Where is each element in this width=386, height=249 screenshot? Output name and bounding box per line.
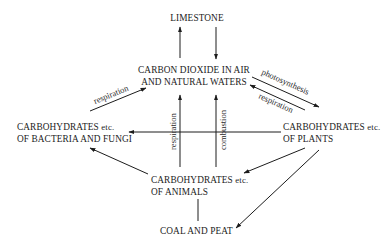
label-animals-respiration: respiration xyxy=(168,113,178,150)
node-coal-peat: COAL AND PEAT xyxy=(160,225,233,237)
node-bacteria-line1: CARBOHYDRATES xyxy=(17,122,99,132)
node-animals-etc: etc. xyxy=(235,175,248,185)
node-animals: CARBOHYDRATES etc. OF ANIMALS xyxy=(151,174,248,198)
node-plants: CARBOHYDRATES etc. OF PLANTS xyxy=(283,121,380,145)
node-plants-line1: CARBOHYDRATES xyxy=(283,122,365,132)
arrow-plants-to-animals xyxy=(244,148,305,173)
node-bacteria-etc: etc. xyxy=(101,122,114,132)
carbon-cycle-diagram: respiration photosynthesis respiration r… xyxy=(0,0,386,249)
node-limestone: LIMESTONE xyxy=(166,12,228,24)
arrow-animals-to-bacteria xyxy=(90,148,148,174)
node-animals-line2: OF ANIMALS xyxy=(151,186,248,198)
node-coal-label: COAL AND PEAT xyxy=(160,226,233,236)
node-co2-line2: AND NATURAL WATERS xyxy=(132,76,256,88)
node-co2-line1: CARBON DIOXIDE IN AIR xyxy=(132,64,256,76)
node-bacteria-line2: OF BACTERIA AND FUNGI xyxy=(17,133,132,145)
node-limestone-label: LIMESTONE xyxy=(170,13,223,23)
arrow-plants-to-coal xyxy=(236,150,319,228)
node-plants-etc: etc. xyxy=(367,122,380,132)
label-combustion: combustion xyxy=(218,109,228,150)
node-bacteria-fungi: CARBOHYDRATES etc. OF BACTERIA AND FUNGI xyxy=(17,121,132,145)
node-animals-line1: CARBOHYDRATES xyxy=(151,175,233,185)
node-plants-line2: OF PLANTS xyxy=(283,133,380,145)
node-co2: CARBON DIOXIDE IN AIR AND NATURAL WATERS xyxy=(132,64,256,88)
